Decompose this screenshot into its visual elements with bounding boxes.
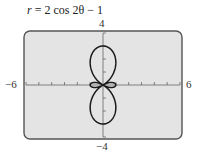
polar-plot bbox=[0, 0, 201, 154]
